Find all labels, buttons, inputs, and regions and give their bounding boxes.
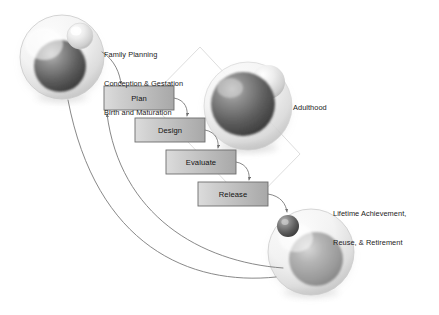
birth-stage-label: Family Planning Conception & Gestation B… xyxy=(104,31,183,137)
retirement-stage-line-2: Reuse, & Retirement xyxy=(333,238,406,248)
birth-sphere-bud xyxy=(67,23,93,49)
process-box-evaluate-label: Evaluate xyxy=(166,158,236,167)
retirement-sphere-bud xyxy=(277,215,299,237)
lifecycle-diagram: Plan Design Evaluate Release Family Plan… xyxy=(0,0,439,315)
birth-sphere xyxy=(18,15,106,106)
evaluate-to-release-arrow xyxy=(236,162,249,180)
adulthood-sphere xyxy=(202,62,294,155)
birth-stage-line-1: Family Planning xyxy=(104,50,183,60)
retirement-stage-label: Lifetime Achievement, Reuse, & Retiremen… xyxy=(333,190,406,267)
birth-stage-line-2: Conception & Gestation xyxy=(104,79,183,89)
adulthood-stage-line-1: Adulthood xyxy=(293,103,327,113)
birth-stage-line-3: Birth and Maturation xyxy=(104,108,183,118)
release-to-retirement-arrow xyxy=(268,194,287,212)
retirement-stage-line-1: Lifetime Achievement, xyxy=(333,209,406,219)
adulthood-stage-label: Adulthood xyxy=(293,84,327,132)
process-box-release-label: Release xyxy=(198,190,268,199)
